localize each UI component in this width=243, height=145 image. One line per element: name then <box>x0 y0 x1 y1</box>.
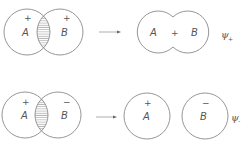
separate-b-sign: − <box>202 98 210 108</box>
overlapping-orbitals-top: + A + B <box>4 9 83 55</box>
overlapping-orbitals-bottom: + A − B <box>2 92 81 138</box>
merged-b-label: B <box>191 27 198 38</box>
merged-a-label: A <box>149 27 157 38</box>
orbital-b-sign: − <box>63 97 71 107</box>
svg-text:+: + <box>228 35 233 42</box>
orbital-b-sign: + <box>63 13 71 23</box>
orbital-a-label: A <box>21 27 29 38</box>
separate-a-sign: + <box>144 98 152 108</box>
orbital-overlap-diagram: + A + B A + B ψ + + A − B <box>0 0 243 145</box>
right-arrow-icon <box>96 116 117 119</box>
orbital-b-label: B <box>61 110 68 121</box>
separate-a-label: A <box>142 111 150 122</box>
svg-text:-: - <box>238 117 240 124</box>
orbital-a-label: A <box>20 110 28 121</box>
orbital-a-sign: + <box>24 13 32 23</box>
orbital-b-label: B <box>61 27 68 38</box>
antibonding-separate-orbitals: + A − B <box>124 93 228 139</box>
merged-plus-sign: + <box>171 28 179 38</box>
bonding-merged-orbital: A + B <box>137 11 208 53</box>
psi-plus-label: ψ + <box>221 29 233 42</box>
row-antibonding: + A − B + A − B ψ - <box>2 92 240 139</box>
psi-minus-label: ψ - <box>231 112 240 124</box>
separate-b-label: B <box>200 111 207 122</box>
right-arrow-icon <box>99 31 121 34</box>
orbital-a-sign: + <box>22 97 30 107</box>
row-bonding: + A + B A + B ψ + <box>4 9 233 55</box>
